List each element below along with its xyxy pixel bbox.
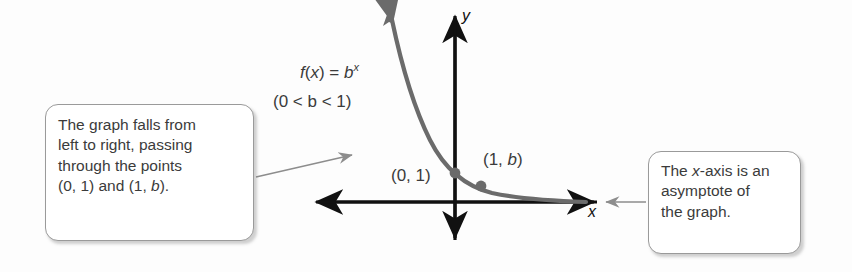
point-1-b-dot <box>476 181 487 192</box>
callout-left-line-4: (0, 1) and (1, b). <box>58 176 242 196</box>
point-label-1-b: (1, b) <box>483 150 523 170</box>
function-exponent: x <box>353 61 359 73</box>
function-f-of-x: f <box>300 63 305 82</box>
left-callout-leader-line <box>256 155 352 177</box>
point-label-0-1: (0, 1) <box>391 166 431 186</box>
callout-left-line-3: through the points <box>58 156 242 176</box>
exponential-decay-figure: f(x) = bx (0 < b < 1) (0, 1) (1, b) y x … <box>0 0 852 272</box>
function-domain-label: (0 < b < 1) <box>273 92 351 112</box>
callout-left-line-2: left to right, passing <box>58 135 242 155</box>
callout-left: The graph falls from left to right, pass… <box>45 104 254 241</box>
point-0-1-dot <box>450 168 461 179</box>
y-axis-label: y <box>462 7 470 25</box>
callout-right-line-3: the graph. <box>661 202 789 222</box>
callout-left-line-1: The graph falls from <box>58 115 242 135</box>
function-expression-label: f(x) = bx <box>300 63 359 83</box>
callout-right: The x-axis is an asymptote of the graph. <box>648 151 801 254</box>
x-axis-label: x <box>588 203 596 221</box>
callout-right-line-1: The x-axis is an <box>661 161 789 181</box>
callout-right-line-2: asymptote of <box>661 181 789 201</box>
